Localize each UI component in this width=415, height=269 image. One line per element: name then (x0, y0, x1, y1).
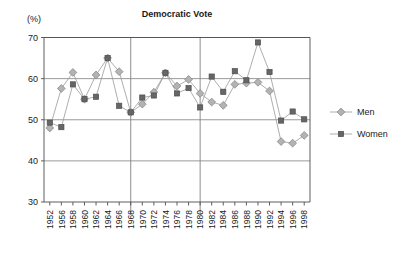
data-point-square (338, 131, 343, 136)
data-point-diamond (92, 71, 100, 79)
data-point-square (244, 78, 249, 83)
x-tick-label: 1980 (195, 210, 205, 229)
data-point-diamond (337, 108, 345, 116)
data-point-square (82, 97, 87, 102)
y-tick-label: 70 (28, 33, 38, 43)
x-tick-label: 1986 (230, 210, 240, 229)
data-point-diamond (254, 78, 262, 86)
x-tick-label: 1990 (253, 210, 263, 229)
x-tick-label: 1998 (299, 210, 309, 229)
x-tick-label: 1964 (103, 210, 113, 229)
x-tick-label: 1976 (172, 210, 182, 229)
x-tick-label: 1974 (161, 210, 171, 229)
x-tick-label: 1982 (207, 210, 217, 229)
data-point-diamond (300, 131, 308, 139)
data-point-diamond (266, 87, 274, 95)
data-series-layer (46, 40, 308, 147)
legend-label-women: Women (357, 129, 388, 139)
data-point-square (278, 118, 283, 123)
x-tick-label: 1960 (80, 210, 90, 229)
x-tick-label: 1966 (114, 210, 124, 229)
x-tick-label: 1958 (68, 210, 78, 229)
data-point-square (128, 110, 133, 115)
y-tick-label: 60 (28, 74, 38, 84)
x-tick-label: 1972 (149, 210, 159, 229)
data-point-square (255, 40, 260, 45)
data-point-square (59, 125, 64, 130)
data-point-square (302, 117, 307, 122)
data-point-diamond (231, 80, 239, 88)
democratic-vote-line-chart: Democratic Vote (%) 3040506070 195219561… (0, 0, 415, 269)
data-point-diamond (57, 85, 65, 93)
data-point-diamond (219, 101, 227, 109)
data-point-diamond (289, 139, 297, 147)
x-tick-label: 1984 (218, 210, 228, 229)
series-line (50, 58, 304, 143)
chart-legend: MenWomen (330, 107, 388, 139)
data-point-square (232, 69, 237, 74)
data-point-square (174, 91, 179, 96)
chart-title: Democratic Vote (142, 9, 212, 19)
data-point-square (198, 105, 203, 110)
x-tick-label: 1996 (288, 210, 298, 229)
data-point-square (163, 70, 168, 75)
x-tick-label: 1992 (265, 210, 275, 229)
x-axis-ticks: 1952195619581960196219641966196819701972… (45, 202, 309, 229)
data-point-square (186, 85, 191, 90)
data-point-square (70, 82, 75, 87)
data-point-square (267, 69, 272, 74)
data-point-square (151, 93, 156, 98)
y-tick-label: 40 (28, 156, 38, 166)
x-tick-label: 1970 (138, 210, 148, 229)
y-tick-label: 50 (28, 115, 38, 125)
x-tick-label: 1988 (242, 210, 252, 229)
data-point-square (47, 120, 52, 125)
data-point-diamond (69, 69, 77, 77)
data-point-square (105, 55, 110, 60)
x-tick-label: 1978 (184, 210, 194, 229)
data-point-diamond (208, 98, 216, 106)
chart-container: Democratic Vote (%) 3040506070 195219561… (0, 0, 415, 269)
y-axis-ticks: 3040506070 (28, 33, 44, 208)
data-point-square (93, 94, 98, 99)
x-tick-label: 1994 (276, 210, 286, 229)
x-tick-label: 1968 (126, 210, 136, 229)
data-point-square (221, 89, 226, 94)
legend-label-men: Men (357, 107, 375, 117)
x-tick-label: 1956 (57, 210, 67, 229)
x-tick-label: 1952 (45, 210, 55, 229)
data-point-square (140, 95, 145, 100)
data-point-square (117, 103, 122, 108)
y-axis-unit-label: (%) (27, 14, 41, 24)
data-point-square (290, 109, 295, 114)
series-men (50, 58, 304, 143)
vertical-marker-lines (131, 38, 200, 216)
data-point-square (209, 74, 214, 79)
x-tick-label: 1962 (91, 210, 101, 229)
y-tick-label: 30 (28, 197, 38, 207)
data-point-diamond (277, 138, 285, 146)
